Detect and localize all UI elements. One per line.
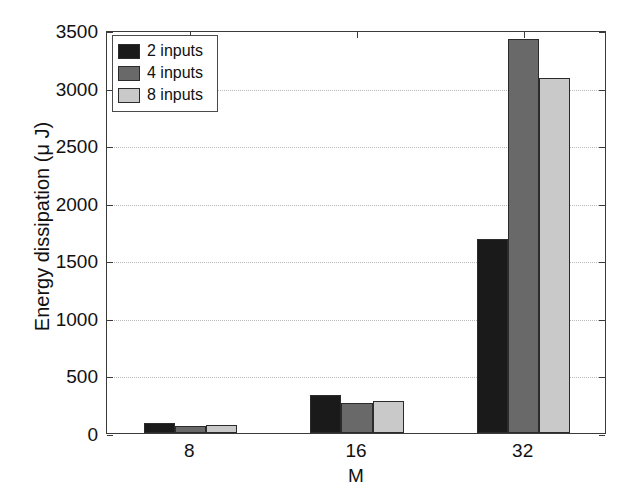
bar xyxy=(477,239,508,433)
legend-item: 2 inputs xyxy=(118,40,212,62)
y-axis-tick-label: 3000 xyxy=(56,79,98,98)
x-axis-tick xyxy=(524,32,525,38)
legend-swatch-icon xyxy=(118,44,140,59)
x-axis-tick-label: 16 xyxy=(345,440,366,462)
y-axis-tick xyxy=(107,377,113,378)
bar xyxy=(508,39,539,433)
y-axis-tick-label: 1500 xyxy=(56,252,98,271)
y-axis-tick xyxy=(107,320,113,321)
x-axis-tick-labels: 81632 xyxy=(106,440,606,466)
y-axis-tick xyxy=(107,147,113,148)
y-axis-tick xyxy=(599,377,605,378)
y-axis-tick-label: 500 xyxy=(66,367,98,386)
legend: 2 inputs4 inputs8 inputs xyxy=(112,35,218,112)
bar xyxy=(373,401,404,433)
x-axis-tick xyxy=(357,32,358,38)
y-axis-tick xyxy=(107,262,113,263)
x-axis-tick-label: 8 xyxy=(184,440,195,462)
legend-swatch-icon xyxy=(118,66,140,81)
legend-item-label: 4 inputs xyxy=(147,65,203,81)
y-axis-tick xyxy=(107,205,113,206)
y-axis-tick-label: 3500 xyxy=(56,22,98,41)
legend-item-label: 2 inputs xyxy=(147,43,203,59)
legend-item: 8 inputs xyxy=(118,84,212,106)
legend-item-label: 8 inputs xyxy=(147,87,203,103)
y-axis-tick xyxy=(599,32,605,33)
bar xyxy=(341,403,372,433)
y-axis-tick xyxy=(599,147,605,148)
bar xyxy=(539,78,570,433)
y-axis-tick xyxy=(599,435,605,436)
y-axis-tick-label: 0 xyxy=(87,425,98,444)
y-axis-tick-label: 2500 xyxy=(56,137,98,156)
y-axis-tick-labels: 0500100015002000250030003500 xyxy=(0,31,98,434)
bar xyxy=(144,423,175,433)
chart-figure: Energy dissipation (μ J) 050010001500200… xyxy=(0,0,623,495)
x-axis-label: M xyxy=(106,465,606,487)
y-axis-tick xyxy=(107,32,113,33)
y-axis-tick xyxy=(599,262,605,263)
bar xyxy=(310,395,341,433)
bar xyxy=(175,426,206,433)
bar xyxy=(206,425,237,433)
legend-swatch-icon xyxy=(118,88,140,103)
y-axis-tick-label: 2000 xyxy=(56,194,98,213)
y-axis-tick xyxy=(599,320,605,321)
y-axis-tick-label: 1000 xyxy=(56,309,98,328)
y-axis-tick xyxy=(599,205,605,206)
legend-item: 4 inputs xyxy=(118,62,212,84)
x-axis-tick-label: 32 xyxy=(512,440,533,462)
y-axis-tick xyxy=(599,90,605,91)
y-axis-tick xyxy=(107,435,113,436)
